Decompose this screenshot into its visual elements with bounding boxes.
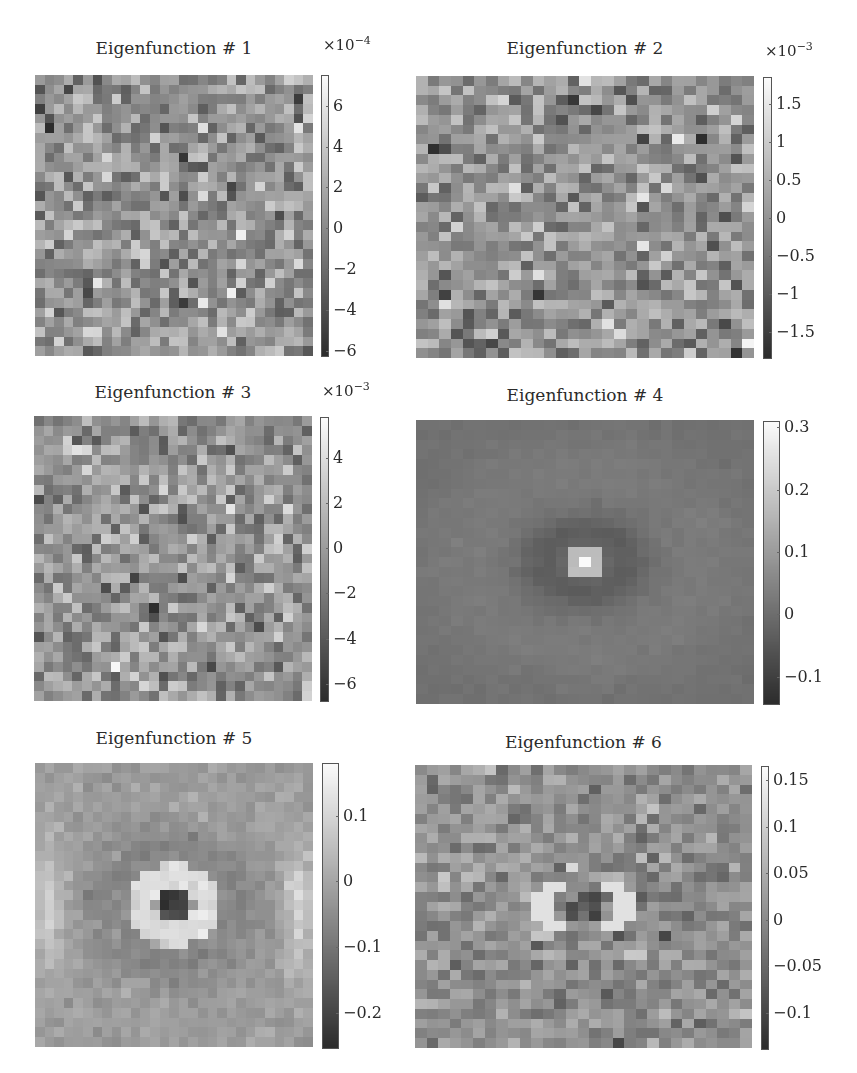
colorbar-tick-label: −0.1 — [343, 939, 382, 955]
colorbar-tick — [326, 147, 329, 148]
colorbar-tick — [326, 269, 329, 270]
colorbar-tick-label: −6 — [333, 676, 357, 692]
colorbar-tick-label: −4 — [333, 302, 357, 318]
colorbar-tick — [326, 639, 329, 640]
colorbar-multiplier: ×10−3 — [322, 380, 370, 400]
colorbar — [321, 75, 329, 357]
colorbar-tick — [326, 684, 329, 685]
heatmap-image — [35, 763, 313, 1047]
colorbar — [761, 766, 769, 1050]
colorbar-tick — [769, 180, 772, 181]
heatmap-image — [416, 76, 754, 358]
colorbar-tick-label: 1 — [776, 134, 786, 150]
colorbar-tick-label: 6 — [333, 98, 343, 114]
colorbar-tick-label: −1.5 — [776, 324, 815, 340]
colorbar-tick — [336, 881, 339, 882]
colorbar-tick — [326, 228, 329, 229]
heatmap-image — [415, 765, 752, 1048]
colorbar-tick-label: 1.5 — [776, 96, 801, 112]
colorbar-tick-label: 0.2 — [784, 482, 809, 498]
colorbar-tick — [326, 548, 329, 549]
colorbar-tick — [777, 614, 780, 615]
colorbar-tick — [336, 1013, 339, 1014]
colorbar-tick — [766, 966, 769, 967]
colorbar-tick-label: 0.3 — [784, 419, 809, 435]
colorbar — [322, 763, 339, 1049]
plot-title: Eigenfunction # 1 — [35, 38, 313, 58]
colorbar-tick-label: 0 — [784, 606, 794, 622]
colorbar-tick — [336, 947, 339, 948]
colorbar-tick — [326, 503, 329, 504]
colorbar-tick — [777, 427, 780, 428]
colorbar-tick — [769, 218, 772, 219]
colorbar-tick-label: 0.1 — [773, 819, 798, 835]
heatmap-image — [34, 416, 312, 701]
colorbar — [320, 417, 329, 702]
heatmap-image — [416, 420, 754, 704]
colorbar-tick-label: 0 — [333, 220, 343, 236]
colorbar-tick — [336, 816, 339, 817]
colorbar-tick-label: 0.05 — [773, 865, 809, 881]
colorbar-tick — [766, 780, 769, 781]
colorbar-tick — [777, 677, 780, 678]
plot-title: Eigenfunction # 3 — [34, 382, 312, 402]
colorbar-tick — [326, 310, 329, 311]
colorbar-tick-label: 4 — [333, 139, 343, 155]
plot-title: Eigenfunction # 5 — [35, 728, 313, 748]
colorbar-tick-label: 0.1 — [784, 544, 809, 560]
colorbar-tick-label: 4 — [333, 450, 343, 466]
plot-title: Eigenfunction # 6 — [415, 732, 752, 752]
colorbar-tick — [777, 490, 780, 491]
colorbar-tick-label: 0.1 — [343, 808, 368, 824]
colorbar-tick-label: 0.5 — [776, 172, 801, 188]
colorbar-tick-label: −1 — [776, 286, 800, 302]
colorbar-tick — [766, 920, 769, 921]
colorbar-tick-label: 0 — [773, 912, 783, 928]
colorbar-tick — [769, 294, 772, 295]
colorbar-tick-label: −0.2 — [343, 1005, 382, 1021]
colorbar-tick-label: 0 — [343, 873, 353, 889]
colorbar-tick-label: −0.05 — [773, 958, 822, 974]
colorbar-tick-label: −6 — [333, 343, 357, 359]
colorbar-tick — [326, 458, 329, 459]
colorbar-tick-label: −0.5 — [776, 248, 815, 264]
colorbar-tick — [326, 351, 329, 352]
colorbar-tick-label: −0.1 — [773, 1005, 812, 1021]
plot-title: Eigenfunction # 2 — [416, 38, 754, 58]
colorbar-tick — [777, 552, 780, 553]
colorbar-multiplier: ×10−3 — [765, 40, 813, 60]
colorbar — [763, 421, 780, 705]
colorbar-tick-label: 2 — [333, 495, 343, 511]
colorbar-multiplier: ×10−4 — [323, 34, 371, 54]
colorbar-tick-label: −4 — [333, 631, 357, 647]
colorbar-tick — [769, 142, 772, 143]
colorbar-tick-label: 0.15 — [773, 772, 809, 788]
colorbar-tick — [326, 593, 329, 594]
colorbar-tick — [326, 187, 329, 188]
colorbar-tick — [326, 106, 329, 107]
colorbar-tick — [769, 104, 772, 105]
colorbar-tick — [766, 873, 769, 874]
colorbar-tick-label: −2 — [333, 585, 357, 601]
heatmap-image — [35, 75, 313, 356]
colorbar-tick-label: 0 — [333, 540, 343, 556]
colorbar-tick — [769, 332, 772, 333]
colorbar-tick — [769, 256, 772, 257]
plot-title: Eigenfunction # 4 — [416, 385, 754, 405]
colorbar-tick — [766, 1013, 769, 1014]
colorbar-tick-label: 2 — [333, 179, 343, 195]
colorbar-tick — [766, 827, 769, 828]
colorbar-tick-label: 0 — [776, 210, 786, 226]
colorbar-tick-label: −2 — [333, 261, 357, 277]
colorbar-tick-label: −0.1 — [784, 669, 823, 685]
